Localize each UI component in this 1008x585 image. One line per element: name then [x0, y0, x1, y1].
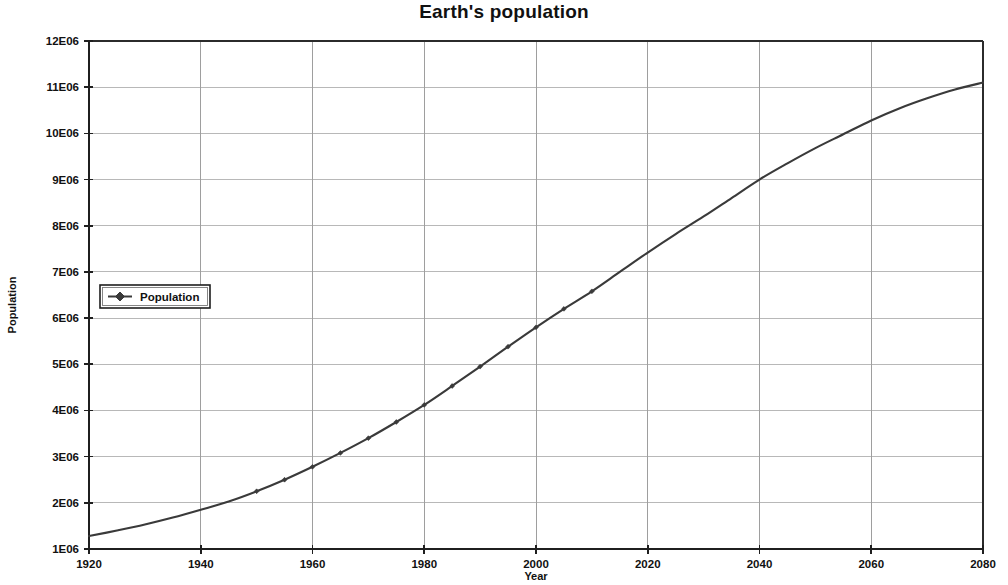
y-axis-tick-label: 2E06 [52, 497, 79, 509]
x-axis-tick-label: 1940 [188, 558, 214, 570]
y-axis-tick-labels: 1E062E063E064E065E066E067E068E069E0610E0… [46, 35, 79, 555]
y-axis-tick-label: 11E06 [46, 81, 79, 93]
x-axis-tick-label: 2020 [635, 558, 661, 570]
x-axis-tick-label: 2060 [858, 558, 884, 570]
y-axis-label: Population [6, 276, 18, 333]
y-axis-tick-label: 7E06 [52, 266, 79, 278]
chart-legend: Population [100, 285, 210, 308]
y-axis-tick-label: 3E06 [52, 451, 79, 463]
y-axis-tick-label: 6E06 [52, 312, 79, 324]
legend-entry-label: Population [140, 291, 199, 303]
x-axis-tick-label: 1960 [300, 558, 326, 570]
y-axis-tick-label: 5E06 [52, 358, 79, 370]
x-axis-tick-label: 1980 [411, 558, 437, 570]
y-axis-tick-label: 4E06 [52, 404, 79, 416]
y-axis-tick-label: 10E06 [46, 127, 79, 139]
x-axis-tick-label: 2040 [747, 558, 773, 570]
chart-plot: 1E062E063E064E065E066E067E068E069E0610E0… [0, 0, 1008, 585]
x-axis-tick-label: 1920 [76, 558, 102, 570]
x-axis-label: Year [524, 570, 548, 582]
y-axis-tick-label: 9E06 [52, 174, 79, 186]
y-axis-tick-label: 1E06 [52, 543, 79, 555]
y-axis-tick-label: 12E06 [46, 35, 79, 47]
x-axis-tick-label: 2080 [970, 558, 996, 570]
x-axis-tick-labels: 192019401960198020002020204020602080 [76, 558, 996, 570]
chart-container: Earth's population 1E062E063E064E065E066… [0, 0, 1008, 585]
x-axis-tick-label: 2000 [523, 558, 549, 570]
y-axis-tick-label: 8E06 [52, 220, 79, 232]
